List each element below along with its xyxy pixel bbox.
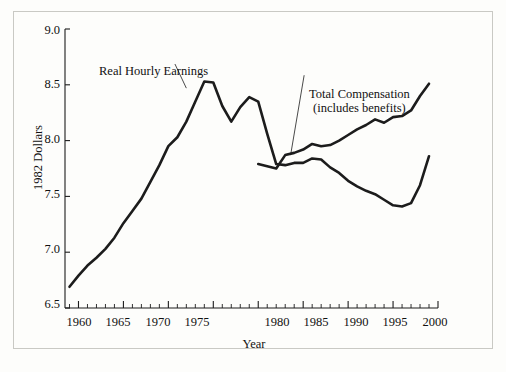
y-axis-title: 1982 Dollars (31, 98, 46, 218)
y-tick-label: 7.0 (32, 242, 60, 257)
y-tick-label: 6.5 (32, 297, 60, 312)
annotation-real-hourly-earnings: Real Hourly Earnings (99, 64, 208, 78)
x-tick-label: 1990 (335, 315, 377, 330)
chart-plot-area (14, 12, 492, 348)
annotation-total-compensation-line2: (includes benefits) (309, 101, 410, 115)
annotation-total-compensation-line1: Total Compensation (309, 87, 410, 101)
chart-frame: 9.0 8.5 8.0 7.5 7.0 6.5 1960 1965 1970 1… (13, 11, 493, 349)
x-tick-label: 1975 (176, 315, 218, 330)
x-axis-title: Year (174, 337, 334, 352)
chart-figure: 9.0 8.5 8.0 7.5 7.0 6.5 1960 1965 1970 1… (0, 0, 506, 372)
y-tick-label: 8.5 (32, 77, 60, 92)
x-tick-label: 1965 (97, 315, 139, 330)
x-tick-label: 2000 (414, 315, 456, 330)
x-tick-label: 1970 (137, 315, 179, 330)
x-tick-label: 1995 (374, 315, 416, 330)
annotation-total-compensation: Total Compensation (includes benefits) (309, 87, 410, 115)
x-tick-label: 1960 (58, 315, 100, 330)
x-tick-label: 1985 (295, 315, 337, 330)
y-tick-label: 9.0 (32, 23, 60, 38)
x-tick-label: 1980 (256, 315, 298, 330)
